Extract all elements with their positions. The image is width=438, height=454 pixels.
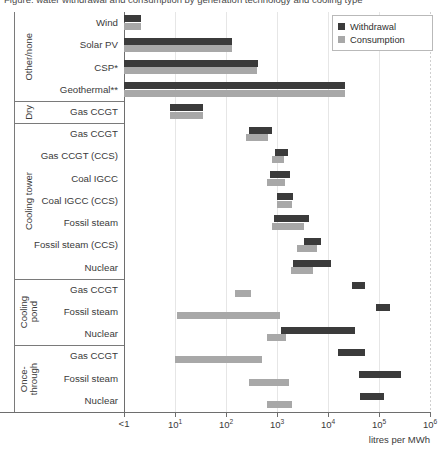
legend-swatch-withdrawal [338,23,345,30]
bar-withdrawal [124,82,345,89]
bar-withdrawal [304,238,321,245]
row-label: Fossil steam (CCS) [34,238,118,252]
bar-consumption [267,401,293,408]
row-label: Gas CCGT [70,349,118,363]
clipped-caption: Figure: water withdrawal and consumption… [0,0,438,7]
legend-label-consumption: Consumption [350,35,405,45]
bar-consumption [175,356,262,363]
bar-withdrawal [293,260,331,267]
row-label: Nuclear [85,327,118,341]
x-axis-title: litres per MWh [369,434,430,445]
row-label: Fossil steam [64,372,118,386]
bar-withdrawal [124,60,258,67]
row-label: Coal IGCC [71,172,118,186]
row-label: Gas CCGT (CCS) [41,149,118,163]
bar-consumption [177,312,280,319]
group-bracket-0 [14,12,15,101]
x-tick-label-3: 103 [270,418,284,430]
gridline-decade-5 [379,12,380,412]
bar-consumption [272,156,284,163]
group-label-0: Other/none [20,12,38,101]
group-bracket-1 [14,101,15,123]
bar-consumption [124,45,232,52]
group-label-4: Once- through [20,345,38,412]
bar-consumption [124,67,257,74]
x-tick-label-1: 101 [168,418,182,430]
plot-area [124,12,430,412]
legend-item-consumption: Consumption [338,35,427,45]
row-label: Nuclear [85,394,118,408]
bar-withdrawal [249,127,271,134]
bar-consumption [267,179,285,186]
bar-withdrawal [124,38,232,45]
row-label: Coal IGCC (CCS) [42,194,118,208]
gridline-decade-4 [328,12,329,412]
bar-consumption [297,245,316,252]
bar-withdrawal [124,15,141,22]
bar-withdrawal [270,171,290,178]
bar-withdrawal [360,393,384,400]
x-axis-line [0,412,430,413]
row-label: Wind [96,16,118,30]
row-label: Gas CCGT [70,105,118,119]
gridline-decade-3 [277,12,278,412]
group-bracket-3 [14,279,15,346]
row-label: Fossil steam [64,305,118,319]
x-tick-4 [328,412,329,417]
bar-withdrawal [359,371,402,378]
bar-withdrawal [352,282,364,289]
bar-consumption [170,112,203,119]
bar-consumption [272,223,304,230]
bar-consumption [124,23,141,30]
x-tick-label-4: 104 [321,418,335,430]
x-tick-label-5: 105 [372,418,386,430]
bar-withdrawal [338,349,365,356]
gridline-decade-6 [430,12,431,412]
bar-withdrawal [281,327,354,334]
bar-consumption [291,267,312,274]
bar-consumption [249,379,289,386]
bar-consumption [267,334,286,341]
bar-withdrawal [376,304,390,311]
row-label: Gas CCGT [70,283,118,297]
bar-withdrawal [274,215,309,222]
x-tick-1 [175,412,176,417]
row-label-column: Other/noneWindSolar PVCSP*Geothermal**Dr… [0,12,124,412]
group-bracket-4 [14,345,15,412]
legend-swatch-consumption [338,36,345,43]
x-tick-0 [124,412,125,417]
bar-consumption [235,290,251,297]
x-tick-3 [277,412,278,417]
row-label: Gas CCGT [70,127,118,141]
x-tick-label-6: 106 [423,418,437,430]
bar-withdrawal [275,149,288,156]
row-label: Nuclear [85,261,118,275]
bar-consumption [246,134,267,141]
bar-withdrawal [277,193,293,200]
bar-consumption [124,90,345,97]
row-label: Solar PV [80,38,118,52]
bar-withdrawal [170,104,203,111]
x-tick-label-0: <1 [119,418,130,429]
x-tick-label-2: 102 [219,418,233,430]
x-tick-6 [430,412,431,417]
row-label: Fossil steam [64,216,118,230]
group-label-3: Cooling pond [20,279,38,346]
legend-item-withdrawal: Withdrawal [338,22,427,32]
x-tick-2 [226,412,227,417]
bar-consumption [277,201,292,208]
x-tick-5 [379,412,380,417]
row-label: Geothermal** [60,83,118,97]
row-label: CSP* [94,61,118,75]
group-label-2: Cooling tower [20,123,38,279]
figure-water-use-chart: Figure: water withdrawal and consumption… [0,0,438,454]
legend: Withdrawal Consumption [332,15,433,51]
legend-label-withdrawal: Withdrawal [350,22,396,32]
group-label-1: Dry [20,101,38,123]
group-bracket-2 [14,123,15,279]
